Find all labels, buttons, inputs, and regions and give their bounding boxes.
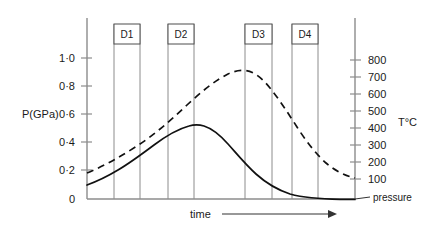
event-box-d4: D4 (292, 24, 318, 44)
event-label-d3: D3 (252, 29, 265, 40)
event-lines-d4 (292, 24, 318, 199)
chart-canvas: 1·0 0·8 0·6 0·4 0·2 0 P(GPa) 800 700 600… (0, 0, 441, 232)
left-tick-label-1-0: 1·0 (59, 52, 75, 64)
right-axis-title: T°C (398, 116, 417, 128)
event-label-d4: D4 (299, 29, 312, 40)
chart-figure: 1·0 0·8 0·6 0·4 0·2 0 P(GPa) 800 700 600… (0, 0, 441, 232)
event-box-d2: D2 (168, 24, 194, 44)
temperature-curve (87, 70, 355, 178)
right-tick-label-600: 600 (368, 88, 386, 100)
right-tick-label-400: 400 (368, 122, 386, 134)
right-tick-label-500: 500 (368, 105, 386, 117)
event-lines-d1 (114, 24, 140, 199)
pressure-leader-line (355, 197, 370, 199)
left-tick-label-0-8: 0·8 (59, 80, 75, 92)
left-axis-title: P(GPa) (22, 108, 59, 120)
right-tick-label-700: 700 (368, 71, 386, 83)
pressure-series-label: pressure (373, 192, 412, 203)
right-tick-label-100: 100 (368, 173, 386, 185)
event-box-d3: D3 (245, 24, 272, 44)
left-tick-label-0-2: 0·2 (59, 164, 75, 176)
time-arrow-head (328, 210, 337, 218)
right-tick-label-300: 300 (368, 139, 386, 151)
event-box-d1: D1 (114, 24, 140, 44)
event-lines-d3 (245, 24, 272, 199)
event-label-d1: D1 (121, 29, 134, 40)
left-tick-label-0: 0 (69, 193, 75, 205)
right-tick-label-200: 200 (368, 156, 386, 168)
right-tick-label-800: 800 (368, 54, 386, 66)
left-tick-label-0-4: 0·4 (59, 136, 75, 148)
event-label-d2: D2 (175, 29, 188, 40)
time-axis-label: time (190, 208, 211, 220)
left-tick-label-0-6: 0·6 (59, 108, 75, 120)
pressure-curve (87, 125, 355, 200)
